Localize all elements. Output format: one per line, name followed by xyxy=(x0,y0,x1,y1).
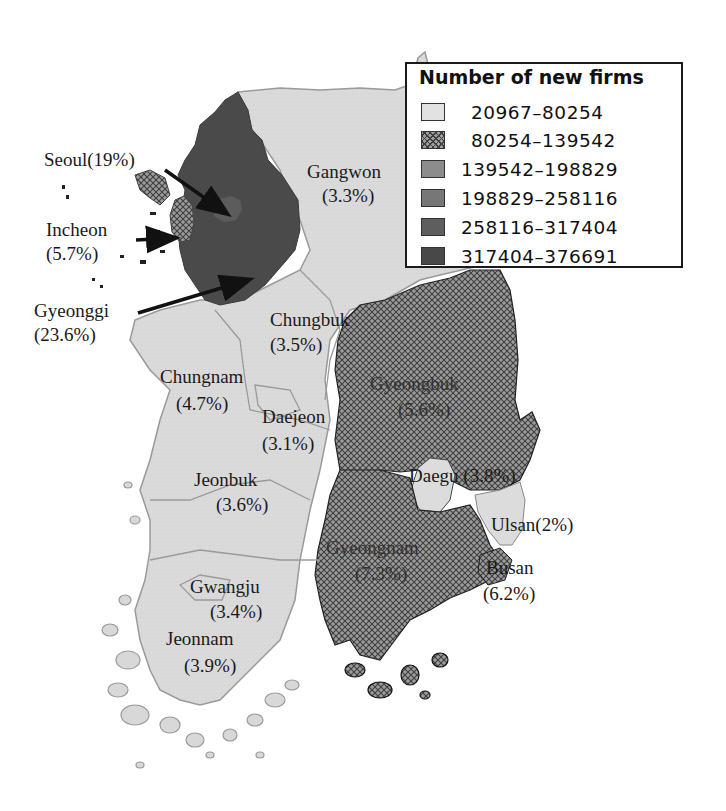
legend-item-5: 258116–317404 xyxy=(421,215,618,239)
label-seoul: Seoul(19%) xyxy=(44,148,135,171)
legend-item-2: 80254–139542 xyxy=(421,128,616,152)
legend-swatch-medium-dark xyxy=(421,189,445,207)
label-gyeongbuk-share: (5.6%) xyxy=(398,398,450,421)
label-incheon-share: (5.7%) xyxy=(46,242,98,265)
region-gyeongnam xyxy=(315,470,500,660)
label-chungbuk-share: (3.5%) xyxy=(270,333,322,356)
label-gyeonggi-share: (23.6%) xyxy=(34,323,96,346)
legend-item-4: 198829–258116 xyxy=(421,186,618,210)
label-chungnam-name: Chungnam xyxy=(160,365,243,388)
label-gwangju-share: (3.4%) xyxy=(210,600,262,623)
legend-swatch-darkest xyxy=(421,247,445,265)
legend-swatch-medium xyxy=(421,160,445,178)
legend-label: 20967–80254 xyxy=(471,102,603,123)
incheon-arrow xyxy=(136,238,174,240)
southeast-islands xyxy=(345,653,448,699)
legend-label: 198829–258116 xyxy=(461,188,618,209)
label-gangwon-name: Gangwon xyxy=(307,160,381,183)
choropleth-map-figure: Seoul(19%) Incheon (5.7%) Gyeonggi (23.6… xyxy=(0,0,726,811)
label-jeonnam-share: (3.9%) xyxy=(184,654,236,677)
label-gwangju-name: Gwangju xyxy=(190,575,260,598)
label-daejeon-share: (3.1%) xyxy=(262,432,314,455)
legend-label: 139542–198829 xyxy=(461,159,618,180)
label-chungbuk-name: Chungbuk xyxy=(270,308,349,331)
label-gyeonggi-name: Gyeonggi xyxy=(34,299,109,322)
label-ulsan: Ulsan(2%) xyxy=(491,513,573,536)
label-gyeongbuk-name: Gyeongbuk xyxy=(370,372,459,395)
label-busan-name: Busan xyxy=(486,556,534,579)
legend-item-1: 20967–80254 xyxy=(421,100,603,124)
legend-item-6: 317404–376691 xyxy=(421,244,618,268)
label-incheon-name: Incheon xyxy=(46,218,107,241)
label-busan-share: (6.2%) xyxy=(483,582,535,605)
label-gyeongnam-share: (7.3%) xyxy=(355,562,407,585)
legend-label: 258116–317404 xyxy=(461,217,618,238)
label-daegu: Daegu (3.8%) xyxy=(409,464,516,487)
label-chungnam-share: (4.7%) xyxy=(176,392,228,415)
label-gyeongnam-name: Gyeongnam xyxy=(326,536,419,559)
label-jeonbuk-name: Jeonbuk xyxy=(194,468,257,491)
legend-title: Number of new firms xyxy=(419,66,644,88)
legend-label: 80254–139542 xyxy=(471,130,616,151)
legend-item-3: 139542–198829 xyxy=(421,157,618,181)
label-jeonnam-name: Jeonnam xyxy=(166,627,234,650)
legend-swatch-crosshatch xyxy=(421,131,445,149)
region-incheon-islands xyxy=(135,170,170,205)
region-incheon xyxy=(170,196,194,242)
legend-label: 317404–376691 xyxy=(461,246,618,267)
map-legend: Number of new firms 20967–80254 80254–13… xyxy=(405,62,683,268)
label-gangwon-share: (3.3%) xyxy=(322,184,374,207)
label-jeonbuk-share: (3.6%) xyxy=(216,493,268,516)
legend-swatch-light xyxy=(421,103,445,121)
legend-swatch-dark xyxy=(421,218,445,236)
label-daejeon-name: Daejeon xyxy=(262,405,325,428)
